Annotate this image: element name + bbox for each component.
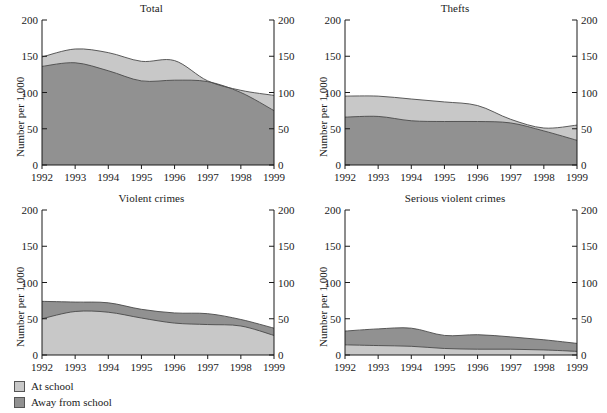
x-tick-label: 1997 bbox=[197, 171, 220, 183]
y-tick-label-right: 100 bbox=[278, 277, 295, 289]
legend-swatch-at-school bbox=[14, 381, 25, 392]
y-tick-label-right: 50 bbox=[278, 123, 290, 135]
panel-serious-violent-crimes: Serious violent crimesNumber per 1,00000… bbox=[303, 190, 607, 376]
x-tick-label: 1997 bbox=[500, 361, 523, 373]
panel-total: TotalNumber per 1,0000050501001001501502… bbox=[0, 0, 303, 190]
x-tick-label: 1994 bbox=[400, 361, 423, 373]
y-tick-label: 150 bbox=[22, 240, 39, 252]
y-tick-label: 150 bbox=[325, 240, 342, 252]
chart-title: Total bbox=[0, 2, 303, 14]
x-tick-label: 1998 bbox=[230, 171, 253, 183]
panel-thefts: TheftsNumber per 1,000005050100100150150… bbox=[303, 0, 607, 190]
x-tick-label: 1993 bbox=[367, 171, 390, 183]
y-tick-label: 50 bbox=[27, 123, 39, 135]
legend-label-away-from-school: Away from school bbox=[31, 394, 112, 410]
plot-area: 0050501001001501502002001992199319941995… bbox=[0, 0, 300, 185]
y-tick-label-right: 150 bbox=[581, 50, 598, 62]
x-tick-label: 1992 bbox=[31, 171, 53, 183]
x-tick-label: 1998 bbox=[533, 361, 556, 373]
y-tick-label-right: 200 bbox=[581, 204, 598, 216]
y-tick-label: 200 bbox=[22, 14, 39, 26]
x-tick-label: 1996 bbox=[467, 361, 490, 373]
y-tick-label-right: 0 bbox=[278, 349, 284, 361]
y-tick-label-right: 200 bbox=[581, 14, 598, 26]
x-tick-label: 1992 bbox=[31, 361, 53, 373]
x-tick-label: 1996 bbox=[164, 361, 187, 373]
y-tick-label: 0 bbox=[33, 349, 39, 361]
plot-area: 0050501001001501502002001992199319941995… bbox=[0, 190, 300, 375]
y-tick-label-right: 100 bbox=[581, 277, 598, 289]
legend-item-at-school: At school bbox=[14, 378, 112, 394]
y-tick-label: 0 bbox=[336, 159, 342, 171]
y-tick-label-right: 0 bbox=[278, 159, 284, 171]
chart-title: Thefts bbox=[303, 2, 607, 14]
y-tick-label: 50 bbox=[330, 313, 342, 325]
y-tick-label-right: 50 bbox=[278, 313, 290, 325]
x-tick-label: 1993 bbox=[64, 171, 87, 183]
x-tick-label: 1995 bbox=[130, 171, 153, 183]
y-tick-label: 150 bbox=[22, 50, 39, 62]
x-tick-label: 1995 bbox=[433, 171, 456, 183]
x-tick-label: 1994 bbox=[400, 171, 423, 183]
x-tick-label: 1998 bbox=[230, 361, 253, 373]
plot-area: 0050501001001501502002001992199319941995… bbox=[303, 190, 603, 375]
y-tick-label-right: 50 bbox=[581, 123, 593, 135]
y-tick-label: 200 bbox=[325, 14, 342, 26]
x-tick-label: 1997 bbox=[197, 361, 220, 373]
y-tick-label-right: 200 bbox=[278, 204, 295, 216]
chart-title: Serious violent crimes bbox=[303, 192, 607, 204]
y-tick-label-right: 150 bbox=[278, 50, 295, 62]
x-tick-label: 1996 bbox=[164, 171, 187, 183]
y-tick-label-right: 200 bbox=[278, 14, 295, 26]
x-tick-label: 1999 bbox=[566, 171, 589, 183]
x-tick-label: 1993 bbox=[367, 361, 390, 373]
x-tick-label: 1993 bbox=[64, 361, 87, 373]
panel-violent-crimes: Violent crimesNumber per 1,0000050501001… bbox=[0, 190, 303, 376]
x-tick-label: 1998 bbox=[533, 171, 556, 183]
legend-label-at-school: At school bbox=[31, 378, 73, 394]
y-tick-label-right: 100 bbox=[278, 87, 295, 99]
charts-grid: TotalNumber per 1,0000050501001001501502… bbox=[0, 0, 607, 376]
legend: At school Away from school bbox=[14, 378, 112, 410]
x-tick-label: 1994 bbox=[97, 171, 120, 183]
x-tick-label: 1999 bbox=[263, 361, 286, 373]
x-tick-label: 1996 bbox=[467, 171, 490, 183]
y-tick-label-right: 150 bbox=[581, 240, 598, 252]
legend-item-away-from-school: Away from school bbox=[14, 394, 112, 410]
x-tick-label: 1994 bbox=[97, 361, 120, 373]
y-tick-label: 50 bbox=[330, 123, 342, 135]
x-tick-label: 1995 bbox=[433, 361, 456, 373]
y-tick-label-right: 0 bbox=[581, 159, 587, 171]
x-tick-label: 1995 bbox=[130, 361, 153, 373]
y-tick-label-right: 100 bbox=[581, 87, 598, 99]
y-tick-label: 150 bbox=[325, 50, 342, 62]
y-tick-label: 200 bbox=[325, 204, 342, 216]
x-tick-label: 1997 bbox=[500, 171, 523, 183]
y-tick-label-right: 150 bbox=[278, 240, 295, 252]
y-tick-label-right: 50 bbox=[581, 313, 593, 325]
y-tick-label: 50 bbox=[27, 313, 39, 325]
x-tick-label: 1999 bbox=[566, 361, 589, 373]
x-tick-label: 1992 bbox=[334, 361, 356, 373]
y-tick-label: 200 bbox=[22, 204, 39, 216]
y-axis-label: Number per 1,000 bbox=[14, 77, 26, 157]
y-tick-label: 0 bbox=[33, 159, 39, 171]
y-axis-label: Number per 1,000 bbox=[317, 267, 329, 347]
y-axis-label: Number per 1,000 bbox=[14, 267, 26, 347]
chart-title: Violent crimes bbox=[0, 192, 303, 204]
x-tick-label: 1992 bbox=[334, 171, 356, 183]
x-tick-label: 1999 bbox=[263, 171, 286, 183]
plot-area: 0050501001001501502002001992199319941995… bbox=[303, 0, 603, 185]
y-tick-label-right: 0 bbox=[581, 349, 587, 361]
legend-swatch-away-from-school bbox=[14, 397, 25, 408]
y-axis-label: Number per 1,000 bbox=[317, 77, 329, 157]
y-tick-label: 0 bbox=[336, 349, 342, 361]
